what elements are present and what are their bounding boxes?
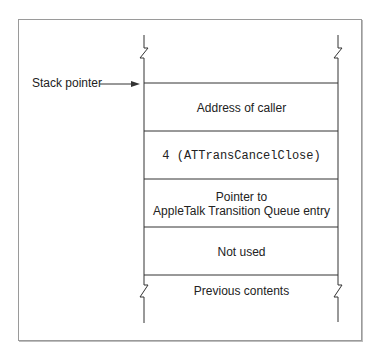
cell-line-1: Pointer to — [216, 190, 267, 204]
cell-address-of-caller: Address of caller — [145, 84, 338, 131]
arrow-icon — [131, 81, 140, 87]
cell-previous-contents: Previous contents — [145, 276, 338, 306]
cell-line-2: AppleTalk Transition Queue entry — [153, 204, 330, 218]
stack-pointer-label: Stack pointer — [32, 76, 102, 90]
cell-queue-entry-pointer: Pointer to AppleTalk Transition Queue en… — [145, 180, 338, 227]
cell-not-used: Not used — [145, 228, 338, 275]
cell-selector: 4 (ATTransCancelClose) — [145, 132, 338, 179]
